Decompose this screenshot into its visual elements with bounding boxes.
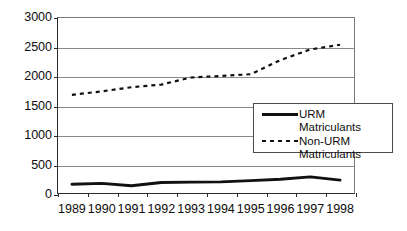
x-tick-label: 1994 (207, 203, 235, 216)
x-tick-label: 1992 (147, 203, 175, 216)
chart-legend: URM Matriculants Non-URM Matriculants (253, 103, 393, 153)
solid-line-swatch (259, 108, 299, 121)
x-tick-label: 1998 (326, 203, 354, 216)
legend-entry-non-urm: Non-URM Matriculants (259, 135, 387, 160)
x-tick-label: 1995 (237, 203, 265, 216)
x-tick-label: 1993 (177, 203, 205, 216)
legend-label-urm: URM Matriculants (299, 108, 387, 133)
x-tick-label: 1996 (267, 203, 295, 216)
x-tick-label: 1997 (296, 203, 324, 216)
legend-label-non-urm: Non-URM Matriculants (299, 135, 361, 160)
x-tick-label: 1991 (118, 203, 146, 216)
x-tick-label: 1990 (88, 203, 116, 216)
legend-entry-urm: URM Matriculants (259, 108, 387, 133)
line-chart: 050010001500200025003000 198919901991199… (0, 0, 407, 231)
dashed-line-swatch (259, 135, 299, 148)
x-tick-label: 1989 (58, 203, 86, 216)
